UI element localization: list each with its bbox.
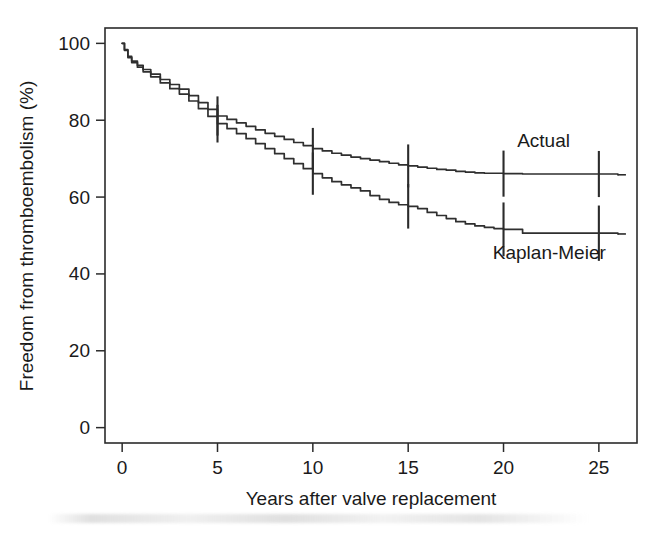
y-tick-label-60: 60	[69, 187, 90, 208]
series-label-kaplan-meier: Kaplan-Meier	[493, 242, 607, 263]
x-tick-label-20: 20	[493, 457, 514, 478]
x-tick-label-15: 15	[398, 457, 419, 478]
series-annotations: ActualKaplan-Meier	[493, 130, 607, 262]
y-tick-label-100: 100	[58, 33, 90, 54]
y-axis-ticks: 020406080100	[58, 33, 105, 438]
x-tick-label-5: 5	[212, 457, 223, 478]
x-axis-ticks: 0510152025	[117, 443, 610, 478]
chart-plot: Freedom from thromboembolism (%) Years a…	[0, 0, 662, 535]
curve-actual	[122, 43, 618, 174]
x-tick-label-0: 0	[117, 457, 128, 478]
confidence-interval-marks	[218, 96, 599, 260]
y-axis-title: Freedom from thromboembolism (%)	[16, 81, 37, 391]
y-tick-label-20: 20	[69, 340, 90, 361]
x-axis-title: Years after valve replacement	[246, 488, 497, 509]
x-tick-label-25: 25	[588, 457, 609, 478]
y-tick-label-40: 40	[69, 263, 90, 284]
y-tick-label-0: 0	[79, 417, 90, 438]
series-label-actual: Actual	[517, 130, 570, 151]
x-tick-label-10: 10	[302, 457, 323, 478]
figure-container: Freedom from thromboembolism (%) Years a…	[0, 0, 662, 535]
y-tick-label-80: 80	[69, 110, 90, 131]
plot-frame	[105, 28, 637, 443]
